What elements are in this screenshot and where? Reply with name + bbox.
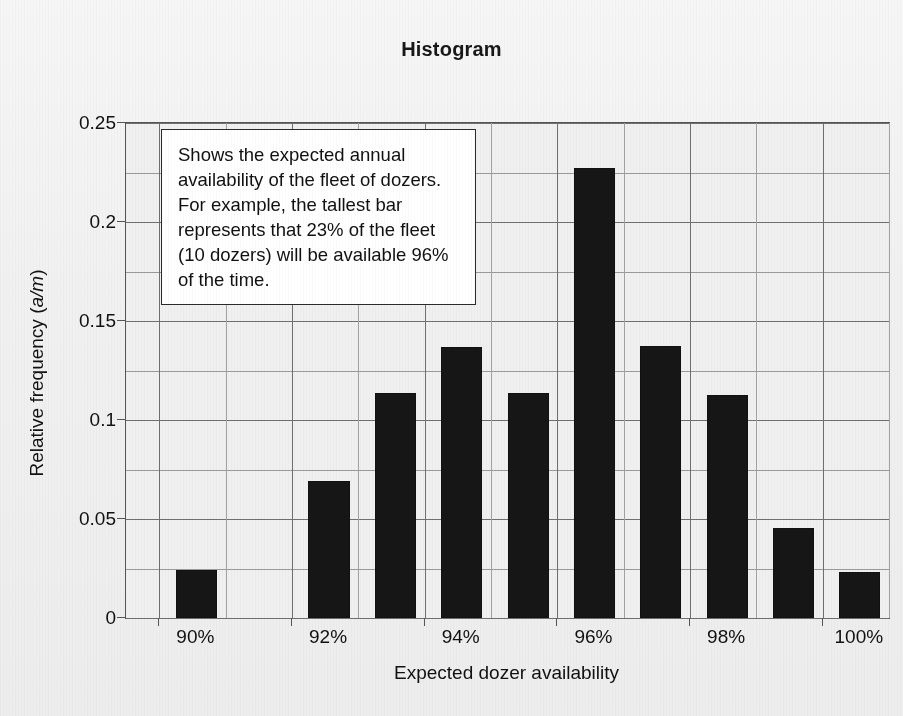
y-tick-label: 0.25 xyxy=(0,113,116,132)
x-tick-label: 96% xyxy=(574,626,612,648)
y-tickmark xyxy=(117,617,125,618)
y-axis-title-tail: ) xyxy=(26,270,47,276)
y-tick-label: 0.1 xyxy=(0,410,116,429)
y-tickmark xyxy=(117,122,125,123)
annotation-text: Shows the expected annual availability o… xyxy=(178,142,461,292)
y-tickmark xyxy=(117,221,125,222)
chart-title: Histogram xyxy=(0,38,903,61)
x-tick-label: 90% xyxy=(176,626,214,648)
annotation-callout: Shows the expected annual availability o… xyxy=(161,129,476,305)
plot-area: Shows the expected annual availability o… xyxy=(125,122,890,619)
x-tick-label: 92% xyxy=(309,626,347,648)
x-tickmark xyxy=(424,618,425,626)
chart-canvas: Histogram 00.050.10.150.20.25 Shows the … xyxy=(0,0,903,716)
y-tick-label: 0.2 xyxy=(0,212,116,231)
y-tick-label: 0.15 xyxy=(0,311,116,330)
y-axis-title: Relative frequency (a/m) xyxy=(26,223,48,523)
y-tickmark xyxy=(117,419,125,420)
y-tick-label: 0 xyxy=(0,608,116,627)
gridline-horizontal-major xyxy=(126,618,889,619)
x-tickmark xyxy=(822,618,823,626)
y-tickmark xyxy=(117,320,125,321)
x-tickmark xyxy=(556,618,557,626)
y-tickmark xyxy=(117,518,125,519)
y-tick-label: 0.05 xyxy=(0,509,116,528)
x-tick-label: 94% xyxy=(442,626,480,648)
x-tickmark xyxy=(291,618,292,626)
x-tickmark xyxy=(158,618,159,626)
x-tick-label: 98% xyxy=(707,626,745,648)
x-axis-tick-labels: 90%92%94%96%98%100% xyxy=(125,626,888,654)
y-axis-tick-labels: 00.050.10.150.20.25 xyxy=(0,122,116,617)
x-tick-label: 100% xyxy=(835,626,884,648)
gridline-vertical-minor xyxy=(889,123,890,618)
annotation-layer: Shows the expected annual availability o… xyxy=(126,123,889,618)
y-axis-title-main: Relative frequency ( xyxy=(26,308,47,477)
x-tickmark xyxy=(689,618,690,626)
y-axis-title-italic: a/m xyxy=(26,276,47,308)
x-axis-title: Expected dozer availability xyxy=(125,662,888,684)
